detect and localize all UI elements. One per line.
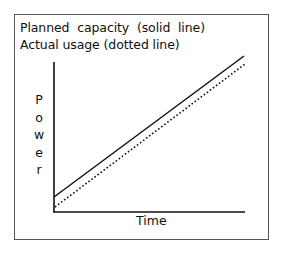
- planned-capacity-line: [54, 56, 244, 197]
- diagram-canvas: [0, 0, 283, 253]
- actual-usage-line: [55, 64, 245, 207]
